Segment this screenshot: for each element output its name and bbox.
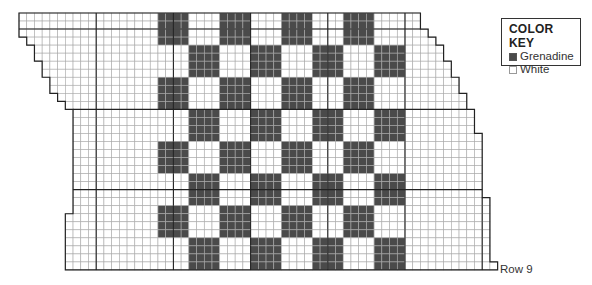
color-key-item-white: White — [509, 63, 580, 76]
grenadine-swatch-icon — [509, 53, 517, 61]
color-key-label: White — [520, 63, 549, 76]
color-key-label: Grenadine — [520, 50, 574, 63]
row-label: Row 9 — [500, 263, 533, 275]
color-key-item-grenadine: Grenadine — [509, 50, 580, 63]
color-key-title: COLOR KEY — [509, 22, 580, 50]
white-swatch-icon — [509, 66, 517, 74]
color-key: COLOR KEY Grenadine White — [501, 18, 581, 66]
